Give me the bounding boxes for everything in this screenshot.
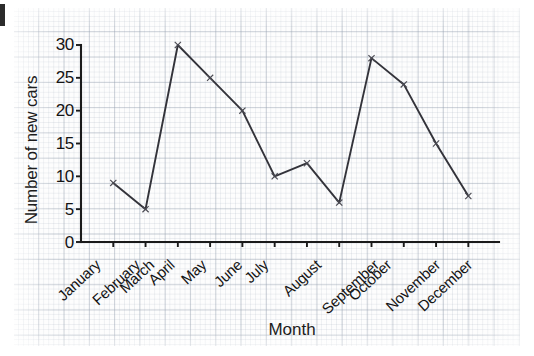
marker-may xyxy=(239,108,245,114)
plot-area xyxy=(0,0,534,356)
data-point-markers xyxy=(110,42,471,212)
data-line-new-cars xyxy=(113,45,468,209)
marker-january xyxy=(110,180,116,186)
chart-canvas: Number of new cars 30 25 20 15 10 5 0 Ja… xyxy=(0,0,534,356)
marker-october xyxy=(401,81,407,87)
marker-april xyxy=(207,75,213,81)
marker-december xyxy=(465,193,471,199)
marker-november xyxy=(433,140,439,146)
